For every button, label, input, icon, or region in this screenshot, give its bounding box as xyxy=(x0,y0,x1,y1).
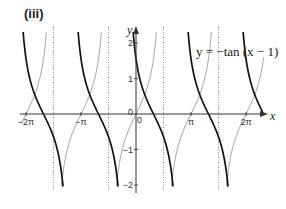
y-tick-label: −2 xyxy=(123,180,133,190)
origin-label: 0 xyxy=(128,107,133,117)
y-tick-label: 2 xyxy=(128,38,133,48)
origin-label: 0 xyxy=(137,115,142,125)
x-axis-arrow-icon xyxy=(260,111,268,117)
y-tick-label: 1 xyxy=(128,74,133,84)
x-axis-label: x xyxy=(269,109,276,123)
x-tick-label: −2π xyxy=(18,117,34,127)
x-tick-label: −π xyxy=(75,117,86,127)
x-tick-label: 2π xyxy=(240,117,251,127)
neg-tan-x-minus-1-curve xyxy=(78,32,118,187)
neg-tan-x-minus-1-curve xyxy=(133,32,173,187)
equation-label: y = −tan (x − 1) xyxy=(196,44,278,59)
y-axis-arrow-icon xyxy=(133,26,139,34)
chart: xy−2π−ππ2π0021−1−2 y = −tan (x − 1) xyxy=(0,0,286,209)
y-axis-label: y xyxy=(126,23,133,37)
x-tick-label: π xyxy=(188,117,194,127)
y-tick-label: −1 xyxy=(123,145,133,155)
neg-tan-x-minus-1-curve xyxy=(23,32,63,187)
